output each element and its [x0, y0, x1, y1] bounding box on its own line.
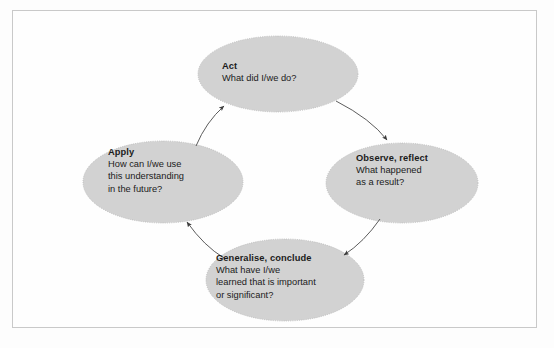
node-ellipse-observe [326, 143, 478, 223]
node-ellipse-apply [83, 141, 243, 223]
node-ellipse-generalise [206, 239, 364, 321]
cycle-diagram-canvas [0, 0, 554, 348]
connector-act-to-observe [336, 101, 387, 140]
connector-observe-to-generalise [344, 219, 380, 255]
figure-root: Act What did I/we do? Observe, reflect W… [0, 0, 554, 348]
connector-generalise-to-apply [187, 222, 224, 258]
connector-apply-to-act [196, 106, 224, 146]
node-ellipse-act [198, 36, 358, 112]
